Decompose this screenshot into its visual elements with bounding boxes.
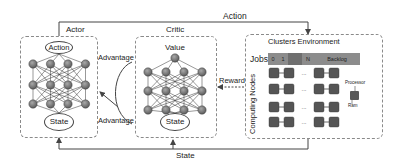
job-slot: 1 xyxy=(278,56,288,62)
advantage-label-top: Advantage xyxy=(98,54,134,62)
action-label: Action xyxy=(223,12,247,21)
environment-box xyxy=(245,34,383,139)
reward-label: Reward xyxy=(219,77,245,85)
computing-nodes-label: Computing Nodes xyxy=(249,74,257,134)
actor-state-node: State xyxy=(44,113,74,131)
advantage-edge xyxy=(100,62,132,124)
jobs-label: Jobs xyxy=(250,55,268,64)
actor-title: Actor xyxy=(66,26,85,34)
critic-state-node: State xyxy=(160,113,190,131)
state-label: State xyxy=(176,152,195,160)
state-edge xyxy=(59,138,308,149)
actor-action-node: Action xyxy=(45,41,73,54)
critic-title: Critic xyxy=(166,26,184,34)
critic-value-label: Value xyxy=(165,44,185,52)
advantage-label-bottom: Advantage xyxy=(98,117,134,125)
job-slot: ... xyxy=(288,53,302,65)
processor-label: Processor xyxy=(345,81,365,86)
job-slot: 0 xyxy=(268,56,278,62)
ram-label: Ram xyxy=(348,104,358,109)
job-slot: N xyxy=(302,56,314,62)
environment-title: Clusters Environment xyxy=(268,38,340,46)
job-slot-backlog: Backlog xyxy=(314,56,360,62)
job-queue: 0 1 ... N Backlog xyxy=(268,53,360,65)
